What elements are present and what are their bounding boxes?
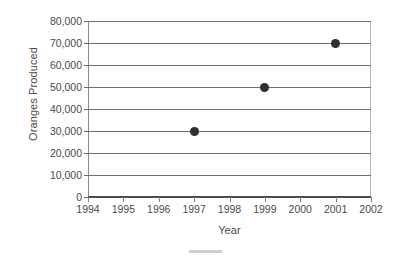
x-axis-title: Year xyxy=(88,224,371,236)
gridline xyxy=(88,109,371,110)
y-tick-label: 0 xyxy=(30,192,82,202)
x-tick-label: 1996 xyxy=(139,203,179,216)
x-tick-label: 1998 xyxy=(210,203,250,216)
y-tick-mark xyxy=(84,65,89,66)
x-axis-tick-labels: 199419951996199719981999200020012002 xyxy=(48,203,401,219)
x-tick-mark xyxy=(371,197,372,202)
y-tick-label: 60,000 xyxy=(30,60,82,70)
gridline xyxy=(88,43,371,44)
gridline xyxy=(88,131,371,132)
x-tick-mark xyxy=(159,197,160,202)
y-tick-label: 50,000 xyxy=(30,82,82,92)
y-tick-mark xyxy=(84,21,89,22)
gridline xyxy=(88,21,371,22)
x-tick-label: 1999 xyxy=(245,203,285,216)
y-tick-label: 10,000 xyxy=(30,170,82,180)
y-tick-mark xyxy=(84,153,89,154)
y-axis-tick-labels: 80,00070,00060,00050,00040,00030,00020,0… xyxy=(30,14,82,204)
y-tick-mark xyxy=(84,175,89,176)
x-tick-label: 2000 xyxy=(280,203,320,216)
y-tick-label: 30,000 xyxy=(30,126,82,136)
gridline xyxy=(88,153,371,154)
x-tick-mark xyxy=(194,197,195,202)
y-tick-label: 80,000 xyxy=(30,16,82,26)
scan-artifact-bar xyxy=(189,250,222,253)
x-tick-label: 2001 xyxy=(316,203,356,216)
gridline xyxy=(88,175,371,176)
oranges-produced-chart: Oranges Produced 80,00070,00060,00050,00… xyxy=(0,0,401,258)
y-tick-mark xyxy=(84,109,89,110)
x-tick-label: 1994 xyxy=(68,203,108,216)
y-tick-label: 20,000 xyxy=(30,148,82,158)
y-tick-label: 40,000 xyxy=(30,104,82,114)
data-point-marker xyxy=(331,39,340,48)
y-tick-mark xyxy=(84,131,89,132)
plot-area xyxy=(88,21,371,197)
x-tick-mark xyxy=(336,197,337,202)
gridline xyxy=(88,87,371,88)
y-tick-mark xyxy=(84,43,89,44)
y-tick-label: 70,000 xyxy=(30,38,82,48)
x-tick-label: 1997 xyxy=(174,203,214,216)
x-tick-mark xyxy=(265,197,266,202)
x-tick-label: 1995 xyxy=(103,203,143,216)
y-tick-mark xyxy=(84,87,89,88)
x-tick-mark xyxy=(300,197,301,202)
data-point-marker xyxy=(190,127,199,136)
x-tick-mark xyxy=(123,197,124,202)
gridline xyxy=(88,65,371,66)
x-tick-label: 2002 xyxy=(351,203,391,216)
data-point-marker xyxy=(260,83,269,92)
x-tick-mark xyxy=(88,197,89,202)
x-tick-mark xyxy=(230,197,231,202)
